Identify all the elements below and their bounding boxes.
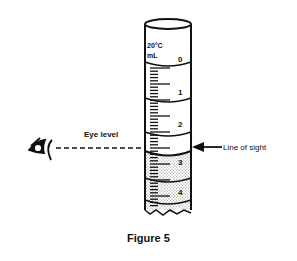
burette-diagram: 0 1 2 3 4 20°C mL Eye level Line of sigh… xyxy=(0,0,297,261)
scale-number-4: 4 xyxy=(178,188,183,197)
line-of-sight-label: Line of sight xyxy=(223,143,267,152)
scale-number-3: 3 xyxy=(178,158,183,167)
scale-number-2: 2 xyxy=(178,120,183,129)
unit-label: mL xyxy=(147,52,158,59)
scale-number-0: 0 xyxy=(178,55,183,64)
scale-number-1: 1 xyxy=(178,88,183,97)
arrow-left-icon xyxy=(192,142,222,152)
eye-icon xyxy=(29,138,52,160)
calibration-temp-label: 20°C xyxy=(147,42,163,49)
eye-level-label: Eye level xyxy=(84,130,118,139)
figure-caption: Figure 5 xyxy=(0,232,297,244)
